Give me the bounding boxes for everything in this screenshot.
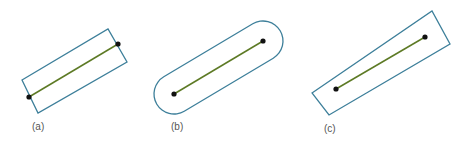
panel-a-endpoint-start (26, 94, 31, 99)
panel-b-label: (b) (171, 122, 183, 132)
panel-c (312, 11, 450, 115)
panel-a-label: (a) (32, 122, 44, 132)
panel-a-rectangle-outline (22, 29, 127, 113)
panel-c-endpoint-start (333, 86, 338, 91)
panel-b-endpoint-start (171, 91, 176, 96)
panel-c-label: (c) (324, 124, 336, 134)
panel-b (171, 38, 265, 96)
panel-c-endpoint-end (422, 34, 427, 39)
panel-a-endpoint-end (115, 41, 120, 46)
panel-a (22, 29, 127, 113)
panel-a-segment (29, 44, 118, 97)
panel-c-segment (336, 37, 425, 89)
line-segment-buffer-diagram (0, 0, 467, 147)
panel-b-endpoint-end (260, 38, 265, 43)
